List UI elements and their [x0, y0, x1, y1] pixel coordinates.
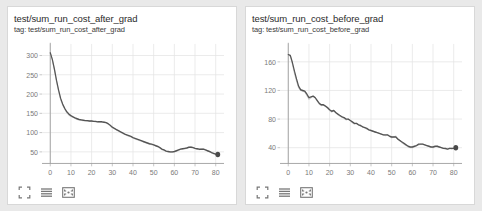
scalar-card-after-grad[interactable]: test/sum_run_cost_after_grad tag: test/s… — [7, 6, 237, 205]
svg-text:40: 40 — [367, 168, 375, 178]
svg-text:0: 0 — [286, 168, 290, 178]
svg-text:70: 70 — [191, 168, 199, 178]
fit-domain-icon[interactable] — [62, 186, 75, 199]
svg-text:70: 70 — [429, 168, 437, 178]
svg-text:50: 50 — [150, 168, 158, 178]
svg-text:20: 20 — [88, 168, 96, 178]
svg-text:120: 120 — [264, 86, 276, 96]
expand-icon[interactable] — [256, 186, 269, 199]
svg-text:80: 80 — [268, 114, 276, 124]
card-title: test/sum_run_cost_after_grad — [14, 13, 230, 24]
svg-text:80: 80 — [212, 168, 220, 178]
svg-text:40: 40 — [129, 168, 137, 178]
svg-text:0: 0 — [48, 168, 52, 178]
svg-text:40: 40 — [268, 143, 276, 153]
fit-domain-icon[interactable] — [300, 186, 313, 199]
scalar-charts-panel: test/sum_run_cost_after_grad tag: test/s… — [0, 0, 482, 211]
svg-text:150: 150 — [26, 109, 38, 119]
expand-icon[interactable] — [18, 186, 31, 199]
line-chart-svg[interactable]: 408012016001020304050607080 — [252, 37, 468, 182]
data-table-icon[interactable] — [40, 186, 53, 199]
svg-text:60: 60 — [408, 168, 416, 178]
svg-text:100: 100 — [26, 128, 38, 138]
card-tag: tag: test/sum_run_cost_before_grad — [252, 25, 468, 34]
svg-text:80: 80 — [450, 168, 458, 178]
svg-text:20: 20 — [326, 168, 334, 178]
scalar-card-before-grad[interactable]: test/sum_run_cost_before_grad tag: test/… — [245, 6, 475, 205]
chart-plot-area[interactable]: 5010015020025030001020304050607080 — [14, 37, 230, 182]
svg-text:50: 50 — [388, 168, 396, 178]
chart-plot-area[interactable]: 408012016001020304050607080 — [252, 37, 468, 182]
svg-text:30: 30 — [108, 168, 116, 178]
line-chart-svg[interactable]: 5010015020025030001020304050607080 — [14, 37, 230, 182]
chart-toolbar — [252, 182, 468, 202]
card-tag: tag: test/sum_run_cost_after_grad — [14, 25, 230, 34]
svg-text:250: 250 — [26, 70, 38, 80]
svg-text:160: 160 — [264, 57, 276, 67]
data-table-icon[interactable] — [278, 186, 291, 199]
svg-text:10: 10 — [305, 168, 313, 178]
svg-text:60: 60 — [170, 168, 178, 178]
svg-text:200: 200 — [26, 89, 38, 99]
card-title: test/sum_run_cost_before_grad — [252, 13, 468, 24]
svg-text:10: 10 — [67, 168, 75, 178]
svg-text:300: 300 — [26, 51, 38, 61]
svg-text:30: 30 — [346, 168, 354, 178]
chart-toolbar — [14, 182, 230, 202]
svg-text:50: 50 — [30, 147, 38, 157]
